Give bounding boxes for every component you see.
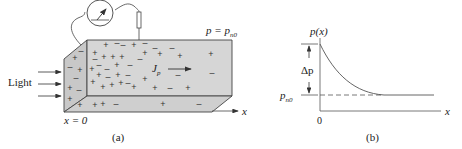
svg-text:–: –: [114, 38, 119, 48]
svg-text:–: –: [167, 83, 172, 93]
svg-text:+: +: [118, 78, 123, 88]
svg-text:–: –: [120, 40, 125, 50]
boundary-label: p = pn0: [205, 24, 237, 39]
delta-label: Δp: [301, 64, 314, 76]
svg-text:+: +: [109, 80, 114, 90]
svg-text:–: –: [209, 68, 214, 78]
svg-text:–: –: [169, 43, 174, 53]
baseline-label: pn0: [279, 89, 293, 104]
svg-text:–: –: [125, 78, 130, 88]
origin-label-a: x = 0: [63, 114, 88, 126]
svg-text:+: +: [90, 77, 95, 87]
svg-text:–: –: [196, 99, 201, 109]
bar-bottom-face: [64, 96, 232, 112]
svg-text:+: +: [77, 100, 82, 110]
svg-text:+: +: [142, 74, 147, 84]
svg-text:–: –: [78, 46, 83, 56]
figure-b: p(x) x 0 Δp pn0 (b): [279, 25, 450, 144]
svg-text:+: +: [103, 40, 108, 50]
svg-text:+: +: [67, 83, 72, 93]
light-label: Light: [8, 76, 32, 88]
svg-text:+: +: [101, 52, 106, 62]
svg-text:+: +: [157, 49, 162, 59]
y-axis-label: p(x): [309, 25, 328, 38]
svg-text:+: +: [142, 48, 147, 58]
svg-text:+: +: [100, 82, 105, 92]
svg-text:+: +: [92, 100, 97, 110]
caption-b: (b): [366, 131, 379, 144]
decay-curve: [320, 44, 434, 95]
svg-text:+: +: [67, 94, 72, 104]
svg-text:+: +: [114, 60, 119, 70]
svg-text:+: +: [152, 83, 157, 93]
svg-text:+: +: [100, 99, 105, 109]
svg-text:–: –: [73, 73, 78, 83]
origin-label: 0: [317, 115, 322, 126]
svg-text:–: –: [127, 60, 132, 70]
x-axis-a-label: x: [241, 105, 247, 117]
svg-text:+: +: [160, 99, 165, 109]
meter-wire-right: [115, 4, 139, 12]
svg-text:+: +: [177, 51, 182, 61]
svg-text:–: –: [67, 62, 72, 72]
svg-text:+: +: [119, 52, 124, 62]
svg-text:–: –: [142, 38, 147, 48]
probe-icon: [137, 12, 141, 40]
svg-text:+: +: [72, 53, 77, 63]
caption-a: (a): [112, 131, 125, 144]
svg-text:–: –: [113, 99, 118, 109]
svg-text:+: +: [96, 70, 101, 80]
figure-a: ++––+– –+–++ –+++–+ +––+– +–+–+ ++++–+ +…: [8, 0, 247, 144]
svg-text:+: +: [131, 82, 136, 92]
x-axis-label: x: [444, 105, 450, 117]
diagram-canvas: ++––+– –+–++ –+++–+ +––+– +–+–+ ++++–+ +…: [0, 0, 462, 149]
galvanometer-icon: [87, 0, 113, 26]
svg-text:–: –: [96, 60, 101, 70]
svg-text:–: –: [175, 70, 180, 80]
svg-text:+: +: [131, 40, 136, 50]
svg-text:–: –: [76, 85, 81, 95]
svg-text:+: +: [89, 64, 94, 74]
svg-text:+: +: [208, 49, 213, 59]
svg-text:+: +: [185, 83, 190, 93]
meter-wire-left: [71, 12, 85, 46]
